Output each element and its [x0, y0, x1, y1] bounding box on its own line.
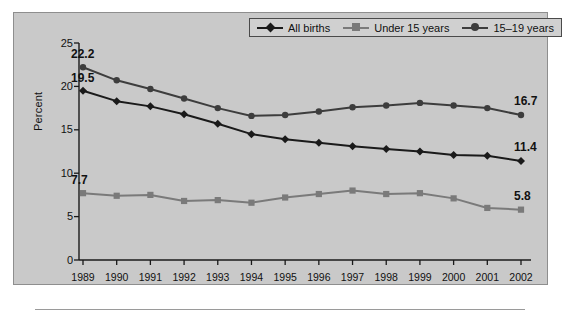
- start-value-under-15-years: 7.7: [71, 174, 88, 186]
- plot-area: [69, 31, 535, 260]
- chart-figure-panel: Percent 0510152025 198919901991199219931…: [13, 12, 548, 285]
- legend-label: 15–19 years: [493, 22, 554, 34]
- legend-item-all-births[interactable]: All births: [257, 22, 330, 34]
- y-axis-title: Percent: [32, 92, 44, 131]
- series-15-19-years: [80, 64, 524, 119]
- y-tick-20: 20: [47, 81, 73, 92]
- series-all-births: [79, 87, 525, 165]
- series-layer: [69, 31, 535, 271]
- y-tick-10: 10: [47, 168, 73, 179]
- legend-marker-circle-icon: [462, 22, 488, 33]
- y-tick-25: 25: [47, 38, 73, 49]
- legend-marker-diamond-icon: [257, 22, 283, 33]
- x-tick-2002: 2002: [501, 272, 541, 283]
- series-under-15-years: [80, 187, 524, 212]
- end-value-15-19-years: 16.7: [514, 95, 537, 107]
- legend-label: Under 15 years: [374, 22, 449, 34]
- y-tick-0: 0: [47, 255, 73, 266]
- legend-marker-square-icon: [343, 22, 369, 33]
- end-value-under-15-years: 5.8: [514, 190, 531, 202]
- legend-item-15-19-years[interactable]: 15–19 years: [462, 22, 554, 34]
- chart-legend: All birthsUnder 15 years15–19 years: [249, 18, 562, 37]
- y-tick-5: 5: [47, 211, 73, 222]
- start-value-all-births: 19.5: [71, 72, 94, 84]
- footer-divider-rule: [35, 309, 525, 310]
- y-tick-15: 15: [47, 124, 73, 135]
- legend-label: All births: [288, 22, 330, 34]
- start-value-15-19-years: 22.2: [71, 48, 94, 60]
- end-value-all-births: 11.4: [514, 141, 537, 153]
- legend-item-under-15-years[interactable]: Under 15 years: [343, 22, 449, 34]
